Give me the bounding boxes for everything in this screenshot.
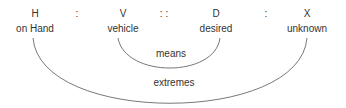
label-vehicle: vehicle <box>107 24 138 34</box>
symbol-v: V <box>120 9 127 19</box>
separator-colon: : <box>76 9 79 19</box>
label-desired: desired <box>200 24 233 34</box>
label-unknown: unknown <box>287 24 327 34</box>
symbol-x: X <box>304 9 311 19</box>
separator-double-colon: : : <box>160 9 168 19</box>
proportion-diagram: H on Hand : V vehicle : : D desired : X … <box>0 0 346 108</box>
separator-colon: : <box>265 9 268 19</box>
extremes-label: extremes <box>153 78 194 88</box>
symbol-h: H <box>31 9 38 19</box>
means-label: means <box>156 49 186 59</box>
label-on-hand: on Hand <box>16 24 54 34</box>
symbol-d: D <box>212 9 219 19</box>
